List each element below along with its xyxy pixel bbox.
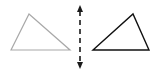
diagram-canvas bbox=[0, 0, 158, 74]
reflection-diagram bbox=[0, 0, 158, 74]
arrowhead-up-icon bbox=[77, 5, 83, 12]
arrowhead-down-icon bbox=[77, 62, 83, 69]
reflected-triangle bbox=[93, 14, 149, 50]
original-triangle bbox=[11, 14, 70, 50]
